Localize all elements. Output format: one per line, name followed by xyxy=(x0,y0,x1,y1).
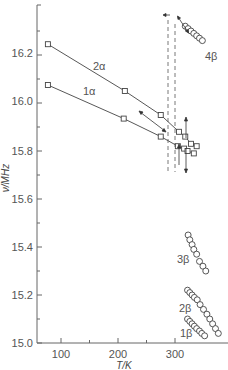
x-tick-label: 200 xyxy=(109,348,127,360)
data-point-circle xyxy=(202,333,208,339)
chart: 15.0 15.2 15.4 15.6 15.8 16.0 16.2 100 2… xyxy=(0,0,228,370)
data-point-square xyxy=(183,134,188,139)
data-point-square xyxy=(45,42,50,47)
y-tick-label: 16.2 xyxy=(12,47,33,59)
y-tick-label: 15.6 xyxy=(12,193,33,205)
data-point-square xyxy=(122,89,127,94)
x-tick-label: 300 xyxy=(166,348,184,360)
data-point-circle xyxy=(199,38,205,44)
arrows xyxy=(139,14,189,174)
y-tick-label: 15.0 xyxy=(12,337,33,349)
x-axis-title: T/K xyxy=(116,360,133,370)
y-tick-label: 16.0 xyxy=(12,95,33,107)
data-point-square xyxy=(121,116,126,121)
data-point-circle xyxy=(194,251,200,257)
data-point-square xyxy=(188,141,193,146)
y-axis-title: ν/MHz xyxy=(0,164,11,192)
data-point-square xyxy=(191,151,196,156)
y-tick-label: 15.4 xyxy=(12,241,33,253)
series-label-2a: 2α xyxy=(93,60,106,72)
data-point-circle xyxy=(215,330,221,336)
data-point-square xyxy=(194,144,199,149)
series-label-1a: 1α xyxy=(83,85,96,97)
x-tick-label: 100 xyxy=(52,348,70,360)
data-point-square xyxy=(158,113,163,118)
data-point-square xyxy=(45,83,50,88)
series-1α xyxy=(45,83,196,156)
y-tick-label: 15.8 xyxy=(12,145,33,157)
data-point-square xyxy=(176,129,181,134)
data-point-square xyxy=(158,134,163,139)
series-2α xyxy=(45,42,199,149)
series-layer xyxy=(45,23,221,339)
series-label-1b: 1β xyxy=(180,327,192,339)
series-label-4b: 4β xyxy=(205,50,217,62)
x-ticks xyxy=(61,338,175,343)
y-ticks xyxy=(37,31,42,343)
y-tick-label: 15.2 xyxy=(12,289,33,301)
series-label-2b: 2β xyxy=(179,302,191,314)
series-label-3b: 3β xyxy=(177,253,189,265)
data-point-circle xyxy=(203,268,209,274)
series-4β xyxy=(182,23,205,43)
